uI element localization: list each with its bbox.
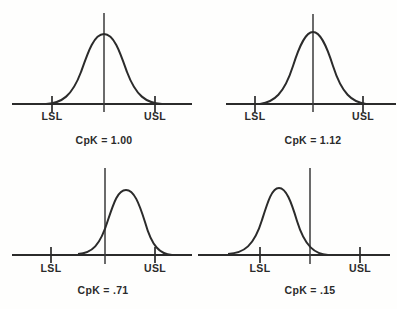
cpk-panel-2: LSL USL CpK = 1.12 [198,0,397,155]
cpk-panel-1: LSL USL CpK = 1.00 [0,0,199,155]
cpk-figure: LSL USL CpK = 1.00 LSL USL CpK = 1.12 LS… [0,0,397,309]
usl-label: USL [144,110,166,122]
cpk-plot-2 [198,0,397,155]
cpk-panel-4: LSL USL CpK = .15 [198,154,397,309]
usl-label: USL [349,262,371,274]
cpk-panel-3: LSL USL CpK = .71 [0,154,199,309]
lsl-label: LSL [40,262,61,274]
usl-label: USL [144,262,166,274]
cpk-caption: CpK = 1.00 [76,134,133,146]
distribution-curve [78,190,172,255]
cpk-caption: CpK = .15 [285,284,336,296]
cpk-plot-1 [0,0,199,155]
distribution-curve [228,188,328,255]
lsl-label: LSL [41,110,62,122]
cpk-caption: CpK = 1.12 [285,134,342,146]
usl-label: USL [352,110,374,122]
lsl-label: LSL [249,262,270,274]
lsl-label: LSL [244,110,265,122]
cpk-caption: CpK = .71 [78,284,129,296]
